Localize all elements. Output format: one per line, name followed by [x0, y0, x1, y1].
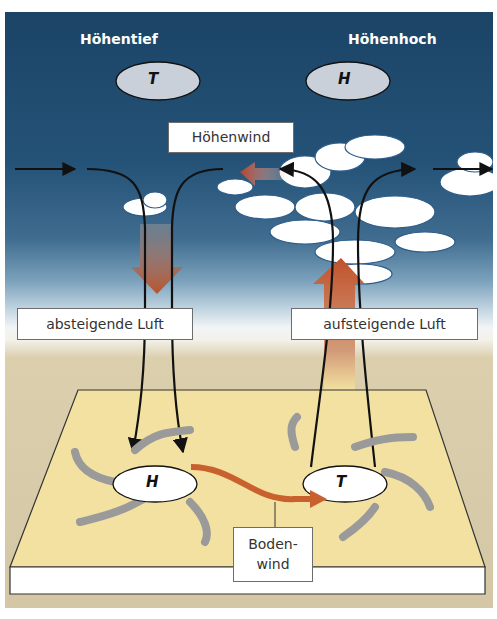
descending-air-label: absteigende Luft: [17, 308, 193, 340]
diagram-frame: Höhentief Höhenhoch T H H T Höhenwind ab…: [5, 12, 493, 608]
upper-high-symbol: H: [338, 70, 351, 88]
surface-wind-label-line2: wind: [234, 554, 312, 574]
clouds: [123, 135, 493, 284]
header-upper-high: Höhenhoch: [348, 31, 437, 47]
header-upper-low: Höhentief: [80, 31, 158, 47]
upper-low-symbol: T: [148, 70, 158, 88]
surface-wind-label-line1: Boden-: [234, 534, 312, 554]
upper-wind-label: Höhenwind: [168, 122, 294, 153]
surface-wind-label: Boden- wind: [233, 527, 313, 582]
ascending-air-label: aufsteigende Luft: [291, 308, 478, 340]
surface-low-symbol: T: [336, 473, 346, 491]
surface-high-symbol: H: [146, 473, 159, 491]
descending-air-arrow: [131, 224, 183, 294]
